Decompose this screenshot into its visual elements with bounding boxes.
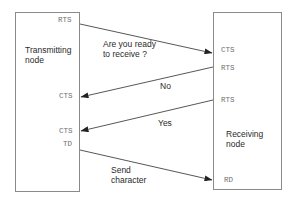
- handshake-diagram: Transmitting node RTS CTS CTS TD Receivi…: [0, 0, 296, 199]
- message-label-no: No: [160, 82, 171, 92]
- message-label-send: Send character: [111, 166, 146, 186]
- arrow-rts-to-cts-no: [81, 67, 213, 97]
- message-arrows: [0, 0, 296, 199]
- arrow-rts-to-cts-yes: [81, 100, 213, 131]
- message-label-request: Are you ready to receive ?: [103, 40, 156, 60]
- message-label-yes: Yes: [158, 119, 172, 129]
